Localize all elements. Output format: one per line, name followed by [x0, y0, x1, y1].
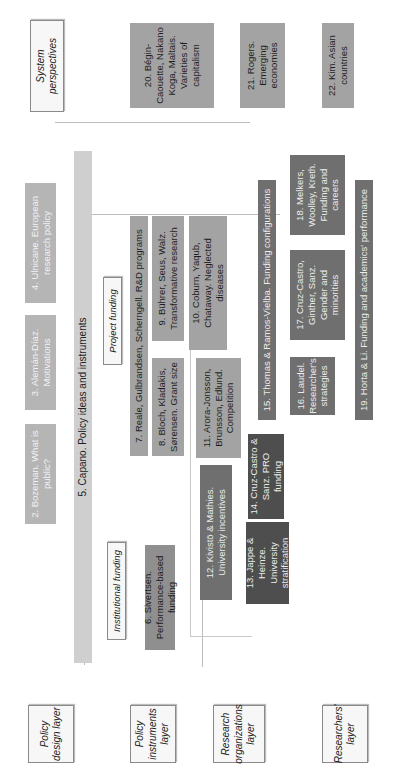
chapter-6-box: 6. Sivertsen. Performance-based funding	[145, 545, 175, 650]
chapter-8-box: 8. Bloch, Kladakis, Sørensen. Grant size	[152, 358, 184, 456]
chapter-11-box: 11. Arora-Jonsson, Brunsson, Edlund. Com…	[196, 358, 241, 458]
chapter-15-box: 15. Thomas & Ramos-Vielba. Funding confi…	[258, 180, 276, 420]
divider-system-perspectives-vertical	[55, 122, 250, 123]
chapter-21-box: 21. Rogers. Emerging economies	[240, 23, 285, 108]
divider-instruments-vertical	[80, 214, 280, 215]
layer-label-system-perspectives: System perspectives	[30, 20, 64, 112]
chapter-14-box: 14. Cruz-Castro & Sanz. PRO funding	[248, 434, 284, 519]
layer-label-policy-design: Policy design layer	[28, 705, 74, 763]
chapter-12-box: 12. Kivistö & Mathies. University incent…	[200, 465, 232, 600]
chapter-18-box: 18. Melkers, Woolley, Kreth. Funding and…	[290, 155, 345, 235]
chapter-2-box: 2. Bozeman. What is public?	[25, 424, 56, 524]
subheader-institutional-funding: Institutional funding	[107, 542, 126, 640]
chapter-4-box: 4. Ulnicane. European research policy	[25, 183, 56, 303]
chapter-13-box: 13. Jappe & Heinze. University stratific…	[246, 522, 289, 604]
diagram-canvas: Policy design layer Policy instruments l…	[0, 0, 407, 775]
chapter-7-box: 7. Reale, Gulbrandsen, Scherngell. R&D p…	[130, 216, 148, 456]
chapter-19-box: 19. Horta & Li. Funding and academics' p…	[355, 180, 373, 420]
chapter-20-box: 20. Bégin-Caouette, Nakano Koga, Maltais…	[130, 23, 214, 108]
chapter-17-box: 17. Cruz-Castro, Ginther, Sanz. Gender a…	[290, 250, 345, 340]
layer-label-policy-instruments: Policy instruments layer	[130, 705, 176, 763]
subheader-project-funding: Project funding	[103, 277, 122, 365]
layer-label-research-organizations: Research organizations layer	[213, 705, 265, 763]
chapter-9-box: 9. Bührer, Seus, Walz. Transformative re…	[152, 216, 184, 341]
chapter-16-box: 16. Laudel. Researcher's strategies	[290, 357, 335, 415]
chapter-10-box: 10. Coburn, Yaqub, Chataway. Neglected d…	[189, 216, 227, 350]
chapter-22-box: 22. Kim. Asian countries	[322, 23, 354, 108]
layer-label-researchers: Researchers' layer	[322, 705, 368, 763]
chapter-3-box: 3. Alemán-Díaz. Motivations	[25, 315, 56, 410]
chapter-5-box: 5. Capano. Policy ideas and instruments	[74, 151, 92, 663]
